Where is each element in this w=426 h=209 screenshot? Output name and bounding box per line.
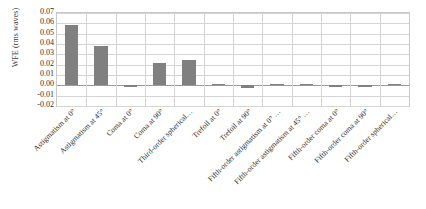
bar [212,84,225,85]
y-axis-tick-label: -0.02 [22,101,54,109]
gridline-vertical [233,13,234,106]
x-axis-tick-label: Fifth-order coma at 90° [313,107,371,165]
bar [270,84,283,85]
y-axis-tick-label: 0.04 [22,39,54,47]
gridline-vertical [292,13,293,106]
bar [153,63,166,86]
bar [94,46,107,85]
bar [65,25,78,85]
gridline-vertical [380,13,381,106]
bar-chart: WFE (rms waves) 0.070.060.050.040.030.02… [0,0,426,209]
y-axis-tick-labels: 0.070.060.050.040.030.020.010.00-0.01-0.… [22,12,54,107]
bar [124,85,137,86]
gridline-vertical [116,13,117,106]
gridline-vertical [145,13,146,106]
gridline-vertical [321,13,322,106]
gridline-vertical [262,13,263,106]
y-axis-tick-label: -0.01 [22,91,54,99]
bar [182,60,195,86]
bar [329,85,342,87]
y-axis-tick-label: 0.03 [22,49,54,57]
y-axis-tick-label: 0.06 [22,18,54,26]
bar [241,85,254,88]
x-axis-tick-labels: Astigmatism at 0°Astigmatism at 45°Coma … [56,107,410,207]
bar [358,85,371,87]
plot-area [56,12,410,107]
x-axis-tick-label: Fifth-order spherical… [343,107,400,164]
y-axis-tick-label: 0.02 [22,60,54,68]
gridline-vertical [350,13,351,106]
x-axis-tick-label: Fifth-order coma at 0° [286,107,341,162]
y-axis-tick-label: 0.05 [22,29,54,37]
x-axis-tick-label: Third-order spherical… [136,107,194,165]
gridline-vertical [174,13,175,106]
bar [388,84,401,85]
y-axis-tick-label: 0.07 [22,8,54,16]
gridline-vertical [204,13,205,106]
y-axis-tick-label: 0.01 [22,70,54,78]
y-axis-title: WFE (rms waves) [11,0,20,83]
bar [300,84,313,85]
y-axis-tick-label: 0.00 [22,80,54,88]
gridline-vertical [86,13,87,106]
